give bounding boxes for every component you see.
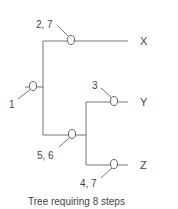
leader-line	[101, 88, 112, 98]
change-marker-icon	[69, 130, 76, 139]
change-label-y: 3	[92, 80, 98, 91]
marker-x	[58, 26, 75, 45]
change-marker-icon	[111, 97, 118, 106]
change-marker-icon	[30, 82, 37, 91]
taxon-label-z: Z	[140, 159, 147, 171]
change-label-root: 1	[9, 99, 15, 110]
taxon-label-y: Y	[140, 96, 148, 108]
marker-z	[101, 160, 118, 179]
taxon-label-x: X	[140, 35, 148, 47]
diagram-caption: Tree requiring 8 steps	[28, 196, 125, 207]
change-marker-icon	[68, 36, 75, 45]
leader-line	[101, 168, 112, 178]
leader-line	[59, 137, 70, 147]
tree-diagram: 1 2, 7 5, 6 3 4, 7 X Y Z Tree requiring …	[0, 0, 178, 209]
marker-yz	[59, 130, 76, 148]
leader-line	[18, 89, 31, 99]
marker-root	[18, 82, 37, 100]
leader-line	[58, 26, 69, 37]
change-label-yz: 5, 6	[37, 150, 54, 161]
marker-y	[101, 88, 118, 106]
change-marker-icon	[111, 160, 118, 169]
change-label-x: 2, 7	[36, 19, 53, 30]
change-label-z: 4, 7	[80, 178, 97, 189]
